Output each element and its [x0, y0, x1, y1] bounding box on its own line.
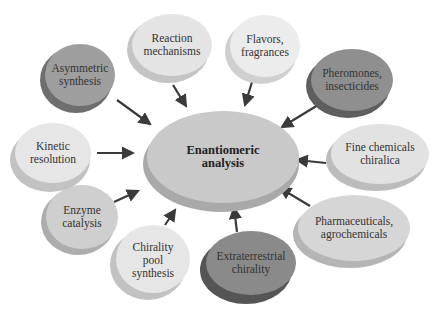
arrow-fine-chemicals — [297, 160, 326, 163]
arrow-extraterrestrial — [234, 208, 237, 232]
node-extraterrestrial-chirality: Extraterrestrial chirality — [206, 246, 296, 280]
node-label: Pheromones, insecticides — [322, 67, 382, 93]
node-asymmetric-synthesis: Asymmetric synthesis — [45, 58, 115, 92]
node-label: Extraterrestrial chirality — [217, 250, 286, 276]
node-label: Chirality pool synthesis — [132, 241, 174, 280]
arrow-chirality-pool — [165, 210, 175, 225]
node-pheromones-insecticides: Pheromones, insecticides — [310, 63, 394, 97]
node-label: Enzyme catalysis — [62, 204, 102, 230]
node-kinetic-resolution: Kinetic resolution — [15, 136, 91, 170]
arrow-asymmetric — [117, 100, 150, 124]
arrow-reaction — [173, 85, 186, 106]
arrow-flavors — [245, 82, 252, 105]
node-flavors-fragrances: Flavors, fragrances — [230, 29, 300, 63]
node-label: Fine chemicals chiralica — [345, 141, 414, 167]
node-chirality-pool-synthesis: Chirality pool synthesis — [116, 238, 190, 282]
arrow-pheromones — [282, 105, 318, 127]
node-label: Kinetic resolution — [30, 140, 76, 166]
node-enzyme-catalysis: Enzyme catalysis — [46, 200, 118, 234]
node-pharmaceuticals-agrochemicals: Pharmaceuticals, agrochemicals — [298, 211, 410, 245]
node-label: Reaction mechanisms — [144, 32, 201, 58]
node-fine-chemicals-chiralica: Fine chemicals chiralica — [330, 137, 430, 171]
node-label: Flavors, fragrances — [241, 33, 289, 59]
diagram-canvas: Enantiomeric analysis Asymmetric synthes… — [0, 0, 440, 317]
node-label: Pharmaceuticals, agrochemicals — [315, 215, 393, 241]
center-node-label: Enantiomeric analysis — [173, 135, 273, 179]
node-reaction-mechanisms: Reaction mechanisms — [132, 28, 212, 62]
node-label: Asymmetric synthesis — [52, 62, 109, 88]
center-label-text: Enantiomeric analysis — [187, 144, 260, 170]
